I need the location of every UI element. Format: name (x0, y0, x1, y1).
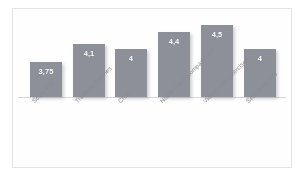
bar-value-label: 4,4 (158, 37, 190, 46)
bar-value-label: 4 (115, 54, 147, 63)
bar-value-label: 4,5 (201, 30, 233, 39)
bar-value-label: 3,75 (30, 67, 62, 76)
bar[interactable]: 4 (115, 49, 147, 97)
bar-chart: 3,75 4,1 4 4,4 4,5 4 Score PTs Tracking … (0, 0, 304, 180)
bar-value-label: 4,1 (73, 49, 105, 58)
